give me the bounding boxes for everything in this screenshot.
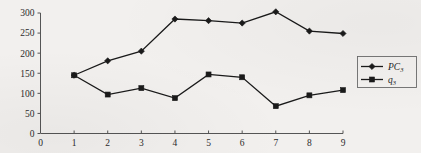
y-tick-label: 50 <box>25 109 35 119</box>
x-tick-label: 2 <box>105 138 110 148</box>
plot-series-group <box>71 9 346 109</box>
y-tick-label: 200 <box>20 49 35 59</box>
y-tick-label: 100 <box>20 89 35 99</box>
y-tick-label: 300 <box>20 8 35 18</box>
data-point-marker <box>172 96 177 101</box>
data-point-marker <box>72 73 77 78</box>
line-chart-canvas: 050100150200250300 0123456789 PC3q3 <box>0 0 421 153</box>
series-pc3 <box>71 9 346 79</box>
x-axis-tick-labels: 0123456789 <box>38 138 346 148</box>
data-point-marker <box>239 20 245 26</box>
series-q3 <box>72 72 346 109</box>
y-tick-label: 150 <box>20 69 35 79</box>
data-point-marker <box>273 104 278 109</box>
y-axis-tick-labels: 050100150200250300 <box>20 8 35 139</box>
x-tick-label: 6 <box>240 138 245 148</box>
data-point-marker <box>105 92 110 97</box>
x-axis: 0123456789 <box>38 131 346 148</box>
data-point-marker <box>273 9 279 15</box>
y-tick-label: 250 <box>20 28 35 38</box>
data-point-marker <box>205 18 211 24</box>
x-tick-label: 3 <box>139 138 144 148</box>
data-point-marker <box>206 72 211 77</box>
x-tick-label: 1 <box>72 138 77 148</box>
y-axis: 050100150200250300 <box>20 8 40 139</box>
x-tick-label: 7 <box>273 138 278 148</box>
legend-frame <box>358 57 417 88</box>
y-tick-label: 0 <box>30 129 35 139</box>
chart-figure: 050100150200250300 0123456789 PC3q3 <box>0 0 421 153</box>
data-point-marker <box>340 30 346 36</box>
chart-legend: PC3q3 <box>358 57 417 88</box>
x-tick-label: 0 <box>38 138 43 148</box>
legend-marker-swatch <box>370 77 375 82</box>
series-line <box>74 74 343 106</box>
x-tick-label: 4 <box>173 138 178 148</box>
data-point-marker <box>105 58 111 64</box>
data-point-marker <box>139 86 144 91</box>
data-point-marker <box>307 93 312 98</box>
x-tick-label: 8 <box>307 138 312 148</box>
data-point-marker <box>341 88 346 93</box>
x-tick-label: 9 <box>341 138 346 148</box>
x-tick-label: 5 <box>206 138 211 148</box>
data-point-marker <box>306 28 312 34</box>
data-point-marker <box>240 75 245 80</box>
